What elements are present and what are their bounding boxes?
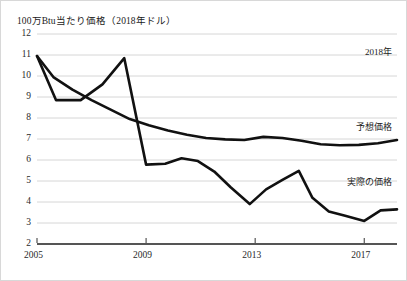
series-lines [37,56,397,221]
x-tick-label: 2009 [133,250,152,260]
annotation-actual-series: 実際の価格 [347,175,392,188]
annotation-forecast-series: 予想価格 [356,120,392,133]
y-tick-label: 4 [9,196,31,206]
x-axis-ticks [37,238,364,243]
chart-figure: 100万Btu当たり価格（2018年ドル） 12111098765432 200… [0,0,407,281]
y-tick-label: 8 [9,112,31,122]
series-line [37,56,397,145]
y-tick-label: 3 [9,217,31,227]
gridlines [37,34,397,223]
y-tick-label: 11 [9,49,31,59]
annotation-year-note: 2018年 [365,45,392,58]
y-tick-label: 10 [9,70,31,80]
plot-area [1,1,407,281]
y-tick-label: 2 [9,238,31,248]
y-tick-label: 5 [9,175,31,185]
x-tick-label: 2013 [242,250,261,260]
x-tick-label: 2005 [24,250,43,260]
y-tick-label: 6 [9,154,31,164]
x-tick-label: 2017 [351,250,370,260]
y-tick-label: 7 [9,133,31,143]
y-tick-label: 9 [9,91,31,101]
y-tick-label: 12 [9,28,31,38]
